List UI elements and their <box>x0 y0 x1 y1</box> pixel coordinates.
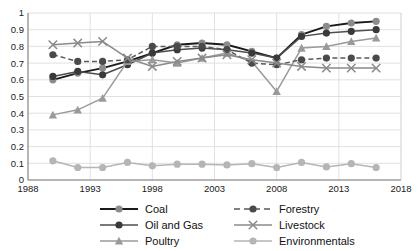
legend-marker-environmentals <box>232 234 274 248</box>
legend-label: Poultry <box>145 234 179 248</box>
data-point <box>149 43 156 50</box>
y-tick-label: 0.1 <box>11 158 24 169</box>
legend-item-livestock[interactable]: Livestock <box>232 217 355 233</box>
data-point <box>248 49 255 56</box>
data-point <box>348 19 355 26</box>
y-tick-label: 0.2 <box>11 141 24 152</box>
legend-column-right: ForestryLivestockEnvironmentals <box>232 201 355 249</box>
legend-marker-forestry <box>232 202 274 216</box>
data-point <box>174 161 181 168</box>
chart-svg: 00.10.20.30.40.50.60.70.80.91 1988199319… <box>0 0 418 200</box>
data-point <box>298 56 305 63</box>
data-point <box>323 163 330 170</box>
x-tick-label: 2008 <box>266 183 287 194</box>
y-tick-label: 0.9 <box>11 24 24 35</box>
y-tick-label: 0.5 <box>11 91 24 102</box>
data-point <box>99 65 106 72</box>
legend-label: Forestry <box>279 202 319 216</box>
data-point <box>273 164 280 171</box>
gridlines <box>28 13 401 180</box>
x-tick-label: 1998 <box>142 183 163 194</box>
line-chart-plot-area: 00.10.20.30.40.50.60.70.80.91 1988199319… <box>0 0 418 200</box>
data-point <box>74 68 81 75</box>
legend-sample-marker <box>115 205 122 212</box>
y-tick-label: 0.6 <box>11 74 24 85</box>
data-point <box>124 159 131 166</box>
data-point <box>149 162 156 169</box>
chart-container: 00.10.20.30.40.50.60.70.80.91 1988199319… <box>0 0 418 251</box>
data-point <box>198 161 205 168</box>
legend-marker-oil-and-gas <box>98 218 140 232</box>
data-point <box>49 51 56 58</box>
y-tick-label: 0.3 <box>11 124 24 135</box>
legend-sample-marker <box>249 237 256 244</box>
data-point <box>323 29 330 36</box>
data-point <box>373 18 380 25</box>
x-tick-label: 1993 <box>80 183 101 194</box>
data-point <box>373 54 380 61</box>
x-tick-label: 2013 <box>328 183 349 194</box>
data-point <box>373 164 380 171</box>
data-point <box>298 159 305 166</box>
legend-marker-poultry <box>98 234 140 248</box>
data-point <box>74 106 82 114</box>
y-tick-label: 0.4 <box>11 108 24 119</box>
legend-sample-marker <box>249 205 256 212</box>
y-tick-label: 0.8 <box>11 41 24 52</box>
legend-column-left: CoalOil and GasPoultry <box>98 201 203 249</box>
data-point <box>99 71 106 78</box>
data-point <box>223 161 230 168</box>
data-point <box>198 43 205 50</box>
x-tick-label: 2003 <box>204 183 225 194</box>
x-tick-label: 1988 <box>17 183 38 194</box>
data-point <box>74 164 81 171</box>
data-point <box>99 164 106 171</box>
legend-marker-coal <box>98 202 140 216</box>
legend-label: Livestock <box>279 218 325 232</box>
data-point <box>348 54 355 61</box>
legend-label: Oil and Gas <box>145 218 203 232</box>
data-point <box>348 28 355 35</box>
legend-item-poultry[interactable]: Poultry <box>98 233 203 249</box>
data-point <box>49 73 56 80</box>
data-point <box>323 23 330 30</box>
y-tick-label: 0.7 <box>11 58 24 69</box>
data-point <box>298 33 305 40</box>
data-point <box>373 26 380 33</box>
x-axis-tick-labels: 1988199319982003200820132018 <box>17 183 411 194</box>
legend-label: Coal <box>145 202 168 216</box>
data-point <box>348 160 355 167</box>
legend-item-forestry[interactable]: Forestry <box>232 201 355 217</box>
x-tick-label: 2018 <box>390 183 411 194</box>
data-point <box>323 54 330 61</box>
data-point <box>49 157 56 164</box>
legend-item-coal[interactable]: Coal <box>98 201 203 217</box>
data-point <box>248 160 255 167</box>
data-point <box>174 43 181 50</box>
legend-label: Environmentals <box>279 234 355 248</box>
data-point <box>74 58 81 65</box>
y-axis-tick-labels: 00.10.20.30.40.50.60.70.80.91 <box>11 7 24 185</box>
data-point <box>99 58 106 65</box>
legend-item-environmentals[interactable]: Environmentals <box>232 233 355 249</box>
chart-legend: CoalOil and GasPoultry ForestryLivestock… <box>0 197 418 251</box>
y-tick-label: 1 <box>19 7 24 18</box>
legend-item-oil-and-gas[interactable]: Oil and Gas <box>98 217 203 233</box>
legend-marker-livestock <box>232 218 274 232</box>
legend-sample-marker <box>115 221 122 228</box>
